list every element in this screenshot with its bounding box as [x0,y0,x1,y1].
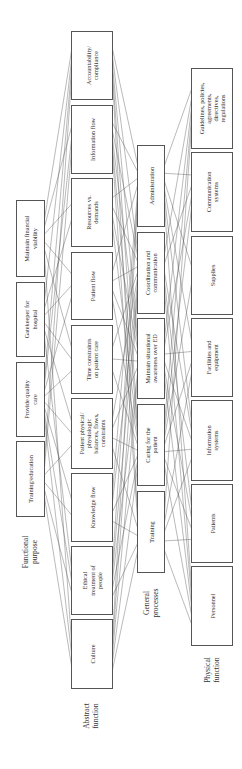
node-functional_purpose-1: Maintain financialviability [17,201,45,277]
node-label: Training [148,520,155,542]
node-abstract_function-5: Time constraintson patient care [72,326,113,394]
connection-line [113,467,138,661]
connection-line [165,273,192,431]
node-label: Culture [89,644,96,663]
connection-line [165,282,192,507]
connection-line [45,79,72,460]
level-label-general-processes: Generalprocesses [142,588,160,617]
node-label: Information flow [89,117,96,161]
connection-line [165,284,192,437]
node-physical_function-5: Informationsystems [192,401,233,481]
node-abstract_function-8: Ethicaltreatment ofpeople [72,547,113,615]
node-general_processes-3: Maintain situationalawareness over ED [138,319,165,399]
connection-line [45,151,72,467]
node-functional_purpose-4: Training/education [17,442,45,517]
connection-line [165,127,192,513]
node-label: Patient flow [89,270,96,301]
connection-line [165,99,192,254]
level-label-physical-function: Physicalfunction [203,657,221,683]
connection-line [165,449,192,451]
connection-line [165,378,192,606]
connection-line [45,257,72,641]
connection-line [45,482,72,515]
node-general_processes-5: Training [138,492,165,573]
node-abstract_function-4: Patient flow [72,253,113,320]
connection-lines [45,49,192,670]
connection-line [165,550,192,624]
node-physical_function-2: Communicationsystems [192,153,233,232]
connection-line [113,374,138,580]
connection-line [45,204,72,234]
connection-line [165,173,192,175]
node-physical_function-7: Personnel [192,567,233,646]
node-label: Accountability/compliance [85,46,99,85]
node-label: Training/education [27,454,34,503]
node-functional_purpose-2: Gatekeeper forhospital [17,283,45,357]
node-abstract_function-3: Resources vs.demands [72,179,113,247]
node-physical_function-3: Supplies [192,237,233,315]
connection-line [113,139,138,342]
connection-line [45,413,72,580]
connection-line [45,139,72,385]
node-label: Maintain situationalawareness over ED [144,333,158,384]
node-general_processes-2: Coordination andcommunication [138,233,165,314]
connection-line [165,108,192,338]
connection-line [45,490,72,592]
node-abstract_function-7: Knowledge flow [72,474,113,542]
level-label-functional-purpose: Functionalpurpose [21,536,39,568]
connection-line [113,359,138,361]
connection-line [113,57,138,250]
node-label: Knowledge flow [89,486,96,529]
abstraction-hierarchy-diagram: Maintain financialviabilityGatekeeper fo… [0,0,242,769]
node-abstract_function-2: Information flow [72,106,113,174]
connection-line [113,147,138,428]
node-abstract_function-1: Accountability/compliance [72,32,113,100]
node-label: Facilities andequipment [205,340,219,375]
node-abstract_function-6: Patient physical/physiologicbalances, fl… [72,399,113,469]
node-label: Patients [209,513,216,533]
node-label: Personnel [209,593,216,618]
node-abstract_function-9: Culture [72,620,113,689]
level-label-abstract-function: Abstractfunction [82,702,100,729]
node-label: Coordination andcommunication [144,250,158,295]
node-general_processes-4: Caring for thepatient [138,405,165,486]
node-physical_function-6: Patients [192,485,233,563]
node-general_processes-1: Administration [138,146,165,227]
node-label: Time constraintson patient care [85,338,99,380]
connection-line [113,456,138,512]
node-label: Supplies [209,264,216,286]
connection-line [165,89,192,165]
node-physical_function-4: Facilities andequipment [192,319,233,397]
connection-line [45,323,72,359]
connection-line [165,362,192,440]
connection-line [165,117,192,423]
connection-line [113,290,138,573]
node-label: Administration [148,166,155,205]
node-physical_function-1: Guidelines, policies,agreements,directiv… [192,69,233,149]
node-functional_purpose-3: Provide qualitycare [17,363,45,437]
